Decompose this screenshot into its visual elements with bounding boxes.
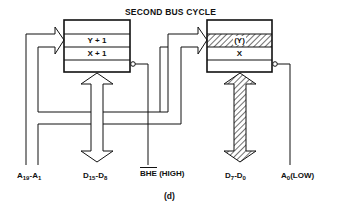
a0-label: A0(LOW) xyxy=(281,172,314,181)
d15-d8-label: D15-D8 xyxy=(83,172,107,181)
left-memory-bank xyxy=(64,20,130,72)
right-bank-row-y: (Y) xyxy=(207,37,272,45)
d15-d8-bus-arrow xyxy=(81,73,113,162)
diagram-title: SECOND BUS CYCLE xyxy=(125,8,216,17)
d7-d0-bus-arrow xyxy=(224,73,256,162)
right-memory-bank xyxy=(207,20,272,72)
address-bus-label: A19-A1 xyxy=(17,172,41,181)
a0-line xyxy=(273,62,290,165)
right-bank-row-x: X xyxy=(207,50,272,58)
left-bank-row-x-plus-1: X + 1 xyxy=(64,50,130,58)
bhe-label: BHE (HIGH) xyxy=(140,170,184,178)
figure-caption: (d) xyxy=(164,192,175,201)
bhe-line xyxy=(131,62,148,165)
left-bank-row-y-plus-1: Y + 1 xyxy=(64,37,130,45)
d7-d0-label: D7-D0 xyxy=(225,172,246,181)
